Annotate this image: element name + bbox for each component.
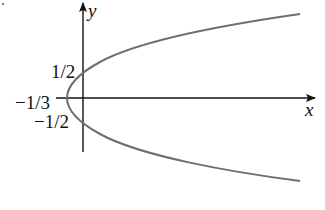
y-axis-label: y xyxy=(88,1,96,20)
label-neg-half: −1/2 xyxy=(34,112,69,131)
stray-dot xyxy=(2,3,4,5)
label-half: 1/2 xyxy=(51,62,75,81)
parabola-graph: y x 1/2 −1/3 −1/2 xyxy=(0,0,325,210)
x-axis-label: x xyxy=(305,100,313,119)
label-neg-third: −1/3 xyxy=(15,93,50,112)
